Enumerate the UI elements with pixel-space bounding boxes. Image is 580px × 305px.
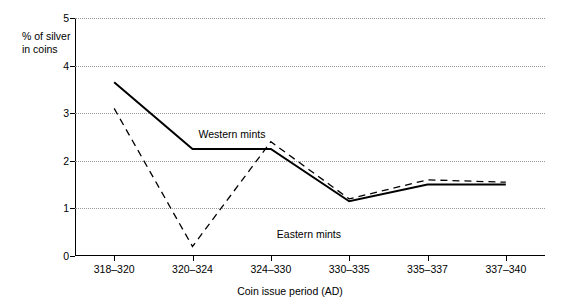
series-label: Eastern mints [277,228,341,240]
x-tick-mark [428,256,429,261]
x-tick-label: 320–324 [172,263,213,275]
y-tick-label: 3 [63,107,69,119]
y-axis-title: % of silver in coins [22,30,70,56]
y-tick-label: 1 [63,202,69,214]
series-line [114,82,506,201]
y-tick-label: 2 [63,155,69,167]
x-tick-mark [271,256,272,261]
x-tick-label: 318–320 [94,263,135,275]
y-tick-mark [70,256,75,257]
x-tick-mark [349,256,350,261]
x-tick-mark [114,256,115,261]
series-line [114,108,506,246]
y-tick-label: 4 [63,60,69,72]
x-tick-mark [506,256,507,261]
y-tick-label: 0 [63,250,69,262]
plot-area: 012345 318–320320–324324–330330–335335–3… [75,18,545,256]
x-tick-mark [193,256,194,261]
x-tick-label: 330–335 [329,263,370,275]
x-tick-label: 337–340 [485,263,526,275]
silver-content-line-chart: % of silver in coins 012345 318–320320–3… [0,0,580,305]
x-tick-label: 335–337 [407,263,448,275]
series-label: Western mints [199,128,266,140]
x-tick-label: 324–330 [250,263,291,275]
y-tick-label: 5 [63,12,69,24]
series-lines [75,18,545,256]
x-axis-title: Coin issue period (AD) [0,285,580,297]
